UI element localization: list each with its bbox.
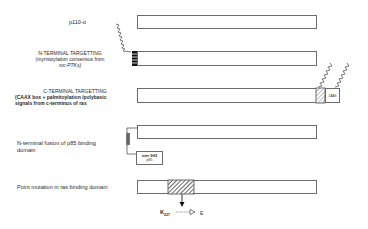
diagram-graphics: [0, 0, 368, 229]
c-terminal-hatched-region: [316, 88, 325, 103]
myristoyl-zigzag-icon: [116, 24, 131, 52]
ras-binding-domain-hatched: [168, 180, 194, 194]
farnesyl-zigzag-icon: [335, 63, 349, 87]
palmitoyl-zigzag-icon: [318, 63, 332, 87]
p85-linker-spring-icon: [126, 128, 137, 154]
mutation-substitution-arrow-icon: [176, 210, 195, 215]
n-terminal-striped-block: [132, 51, 137, 66]
mutation-down-arrow-icon: [180, 194, 185, 207]
